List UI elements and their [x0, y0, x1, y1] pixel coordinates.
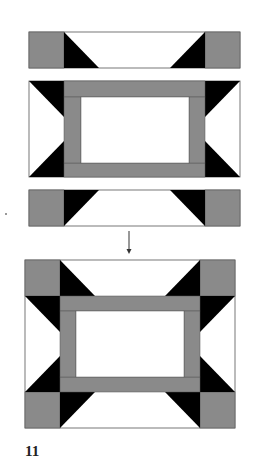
- frame-bottom: [60, 377, 200, 392]
- frame-bottom: [64, 163, 205, 177]
- center-panel: [81, 97, 189, 163]
- frame-right: [184, 311, 200, 377]
- gray-square-right: [205, 32, 240, 68]
- frame-left: [64, 97, 81, 163]
- down-arrow-icon: [127, 231, 132, 254]
- corner-square-tr: [200, 260, 235, 296]
- frame-top: [60, 296, 200, 311]
- quilt-assembly-diagram: [0, 0, 255, 473]
- gray-square-right: [205, 190, 240, 226]
- corner-square-tl: [25, 260, 60, 296]
- corner-square-br: [200, 392, 235, 428]
- middle-unit: [29, 81, 240, 177]
- gray-square-left: [29, 32, 64, 68]
- gray-square-left: [29, 190, 64, 226]
- corner-square-bl: [25, 392, 60, 428]
- step-label: 11: [25, 443, 39, 460]
- assembled-block: [25, 260, 235, 428]
- frame-top: [64, 81, 205, 97]
- frame-left: [60, 311, 76, 377]
- frame-right: [189, 97, 205, 163]
- stray-dot: [5, 213, 7, 215]
- center-panel: [76, 311, 184, 377]
- bottom-strip: [29, 190, 240, 226]
- top-strip: [29, 32, 240, 68]
